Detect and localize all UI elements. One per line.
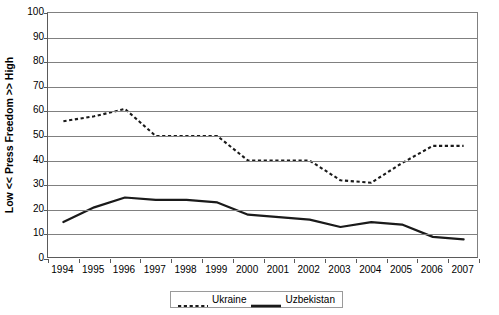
- x-axis-tick-label: 2001: [267, 264, 289, 276]
- gridline: [48, 185, 477, 186]
- x-axis-tick: [202, 259, 203, 263]
- gridline: [48, 210, 477, 211]
- y-axis-tick: [44, 161, 48, 162]
- y-axis-tick-label: 100: [27, 7, 44, 17]
- x-axis-tick-label: 2000: [236, 264, 258, 276]
- y-axis-tick: [44, 210, 48, 211]
- legend-swatch-dashed-icon: [178, 296, 208, 304]
- y-axis-tick: [44, 234, 48, 235]
- x-axis-tick-label: 2004: [359, 264, 381, 276]
- y-axis-tick: [44, 38, 48, 39]
- y-axis-tick-label: 0: [38, 253, 44, 263]
- y-axis-tick: [44, 136, 48, 137]
- x-axis-tick-labels: 1994199519961997199819992000200120022003…: [47, 264, 478, 278]
- legend-item-ukraine: Ukraine: [178, 295, 246, 305]
- x-axis-tick-label: 1996: [113, 264, 135, 276]
- y-axis-tick-label: 40: [33, 155, 44, 165]
- x-axis-tick: [325, 259, 326, 263]
- legend-label-uzbekistan: Uzbekistan: [285, 295, 334, 305]
- y-axis-tick: [44, 13, 48, 14]
- x-axis-tick-label: 1998: [174, 264, 196, 276]
- x-axis-tick: [79, 259, 80, 263]
- gridline: [48, 38, 477, 39]
- legend-label-ukraine: Ukraine: [212, 295, 246, 305]
- y-axis-tick: [44, 185, 48, 186]
- gridline: [48, 161, 477, 162]
- y-axis-title: Low << Press Freedom >> High: [2, 12, 16, 258]
- gridline: [48, 136, 477, 137]
- y-axis-tick-label: 30: [33, 179, 44, 189]
- y-axis-tick-label: 90: [33, 32, 44, 42]
- gridline: [48, 234, 477, 235]
- x-axis-tick-label: 1997: [144, 264, 166, 276]
- x-axis-tick-label: 1995: [82, 264, 104, 276]
- x-axis-tick: [294, 259, 295, 263]
- x-axis-tick-label: 2005: [390, 264, 412, 276]
- legend-item-uzbekistan: Uzbekistan: [251, 295, 334, 305]
- y-axis-tick-label: 60: [33, 105, 44, 115]
- x-axis-tick-label: 1999: [205, 264, 227, 276]
- x-axis-tick: [110, 259, 111, 263]
- y-axis-tick-label: 20: [33, 204, 44, 214]
- series-line-uzbekistan: [63, 198, 463, 240]
- y-axis-tick-labels: 1009080706050403020100: [16, 12, 44, 258]
- gridline: [48, 111, 477, 112]
- legend-swatch-solid-icon: [251, 296, 281, 304]
- x-axis-tick: [356, 259, 357, 263]
- plot-area: [47, 12, 478, 258]
- y-axis-tick: [44, 62, 48, 63]
- x-axis-tick-label: 2007: [451, 264, 473, 276]
- x-axis-tick: [140, 259, 141, 263]
- x-axis-tick: [387, 259, 388, 263]
- y-axis-tick: [44, 87, 48, 88]
- x-axis-tick: [48, 259, 49, 263]
- series-line-ukraine: [63, 109, 463, 183]
- x-axis-tick-label: 2002: [298, 264, 320, 276]
- x-axis-tick: [233, 259, 234, 263]
- y-axis-tick-label: 50: [33, 130, 44, 140]
- y-axis-tick-label: 80: [33, 56, 44, 66]
- y-axis-tick-label: 10: [33, 228, 44, 238]
- x-axis-tick: [171, 259, 172, 263]
- x-axis-tick-label: 2006: [421, 264, 443, 276]
- x-axis-tick: [448, 259, 449, 263]
- x-axis-tick-label: 2003: [328, 264, 350, 276]
- x-axis-tick: [264, 259, 265, 263]
- press-freedom-line-chart: Low << Press Freedom >> High 10090807060…: [0, 0, 499, 315]
- chart-legend: Ukraine Uzbekistan: [170, 291, 343, 308]
- x-axis-tick: [417, 259, 418, 263]
- x-axis-tick: [479, 259, 480, 263]
- x-axis-tick-label: 1994: [51, 264, 73, 276]
- y-axis-tick: [44, 111, 48, 112]
- gridline: [48, 62, 477, 63]
- y-axis-tick-label: 70: [33, 81, 44, 91]
- gridline: [48, 87, 477, 88]
